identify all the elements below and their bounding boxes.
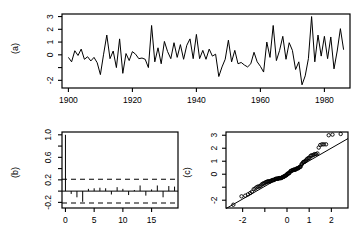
panel-b-ytick-label: -0.2 xyxy=(43,195,53,210)
panel-a-ytick-label: 0 xyxy=(45,52,55,57)
panel-c-data-point xyxy=(324,143,327,146)
panel-b-frame xyxy=(62,132,178,208)
panel-c-ytick-label: 3 xyxy=(209,133,219,138)
panel-a-svg: -2012319001920194019601980 xyxy=(0,0,358,118)
panel-c-ytick-label: 2 xyxy=(209,146,219,151)
panel-a-xtick-label: 1920 xyxy=(123,95,142,105)
panel-c-ytick-label: 1 xyxy=(209,159,219,164)
panel-c-data-point xyxy=(331,133,334,136)
panel-c-xtick-label: 1 xyxy=(307,215,312,225)
panel-a-ytick-label: 2 xyxy=(45,27,55,32)
panel-c-data-point xyxy=(240,195,243,198)
panel-c-data-point xyxy=(339,132,342,135)
panel-c-ytick-label: 0 xyxy=(209,172,219,177)
panel-b-xtick-label: 0 xyxy=(63,215,68,225)
panel-a-ytick-label: 1 xyxy=(45,39,55,44)
panel-a-xtick-label: 1900 xyxy=(59,95,78,105)
panel-a-ytick-label: -2 xyxy=(45,76,55,84)
panel-b-svg: -0.20.20.61.0051015 xyxy=(0,124,186,242)
panel-b-xtick-label: 10 xyxy=(118,215,128,225)
panel-b-ytick-label: 1.0 xyxy=(43,129,53,141)
panel-a-series-line xyxy=(68,17,343,85)
panel-c-xtick-label: 0 xyxy=(285,215,290,225)
panel-c-plot-area: -20123-2012 xyxy=(186,124,358,242)
panel-c-data-point xyxy=(327,134,330,137)
panel-b-ytick-label: 0.6 xyxy=(43,151,53,163)
panel-b-ytick-label: 0.2 xyxy=(43,174,53,186)
panel-c-svg: -20123-2012 xyxy=(186,124,358,242)
panel-c-ytick-label: -2 xyxy=(209,196,219,204)
panel-a-xtick-label: 1960 xyxy=(251,95,270,105)
panel-c-xtick-label: -2 xyxy=(239,215,247,225)
panel-a-xtick-label: 1980 xyxy=(315,95,334,105)
panel-b-xtick-label: 5 xyxy=(92,215,97,225)
panel-b-xtick-label: 15 xyxy=(147,215,157,225)
panel-a-plot-area: -2012319001920194019601980 xyxy=(0,0,358,118)
panel-a-frame xyxy=(62,14,350,88)
panel-b-plot-area: -0.20.20.61.0051015 xyxy=(0,124,186,242)
panel-a-ytick-label: 3 xyxy=(45,14,55,19)
panel-c-xtick-label: 2 xyxy=(329,215,334,225)
statistical-figure: (a) -2012319001920194019601980 (b) -0.20… xyxy=(0,0,358,242)
panel-a-xtick-label: 1940 xyxy=(187,95,206,105)
